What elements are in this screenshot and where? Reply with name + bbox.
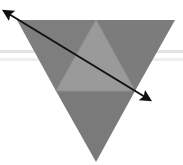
triangle-diagram xyxy=(0,0,183,165)
diagram-svg xyxy=(0,0,183,165)
bottom-subtriangle xyxy=(56,91,135,162)
